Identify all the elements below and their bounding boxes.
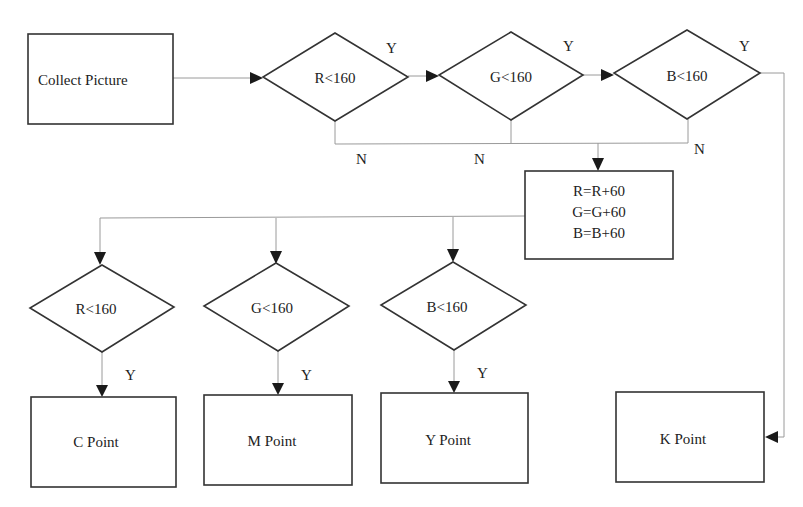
yes-label: Y (563, 38, 574, 54)
output-label: K Point (660, 431, 707, 447)
process-line-g: G=G+60 (572, 204, 626, 220)
decision-r-top: R<160 Y N (263, 33, 408, 167)
arrow-icon (592, 158, 604, 171)
arrow-icon (765, 431, 778, 443)
process-line-r: R=R+60 (573, 183, 625, 199)
decision-label: G<160 (251, 300, 293, 316)
output-k-point: K Point (616, 392, 764, 482)
arrow-icon (272, 383, 284, 395)
decision-label: G<160 (490, 69, 532, 85)
decision-label: R<160 (76, 301, 117, 317)
arrow-icon (96, 385, 108, 397)
output-label: M Point (248, 433, 298, 449)
decision-b-top: B<160 Y N (614, 30, 760, 157)
decision-label: B<160 (667, 68, 708, 84)
arrow-icon (250, 72, 263, 84)
yes-label: Y (125, 367, 136, 383)
arrow-icon (94, 252, 106, 265)
arrow-icon (601, 69, 614, 81)
process-line-b: B=B+60 (573, 225, 625, 241)
output-y-point: Y Point (381, 393, 528, 483)
decision-g-top: G<160 Y N (439, 32, 583, 167)
yes-label: Y (477, 365, 488, 381)
flowchart: Collect Picture R<160 Y N G<160 Y N B<16… (0, 0, 803, 507)
connector-b-yes-to-k (760, 73, 784, 437)
decision-g-bottom: G<160 Y (204, 263, 349, 383)
output-c-point: C Point (31, 397, 176, 487)
no-label: N (694, 141, 705, 157)
yes-label: Y (301, 367, 312, 383)
process-box: R=R+60 G=G+60 B=B+60 (525, 171, 673, 259)
output-label: Y Point (425, 432, 472, 448)
yes-label: Y (386, 40, 397, 56)
yes-label: Y (739, 38, 750, 54)
no-label: N (356, 151, 367, 167)
output-m-point: M Point (204, 395, 352, 485)
no-label: N (474, 151, 485, 167)
arrow-icon (426, 70, 439, 82)
decision-label: B<160 (427, 299, 468, 315)
start-box: Collect Picture (28, 34, 173, 124)
start-label: Collect Picture (38, 72, 128, 88)
output-label: C Point (73, 434, 119, 450)
decision-label: R<160 (315, 70, 356, 86)
arrow-icon (448, 381, 460, 393)
arrow-icon (270, 251, 282, 264)
connector-process-to-r2 (100, 216, 525, 253)
arrow-icon (447, 249, 459, 262)
